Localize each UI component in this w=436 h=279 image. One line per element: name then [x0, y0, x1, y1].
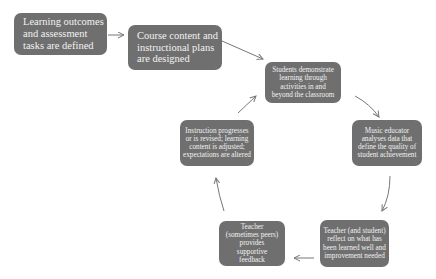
- node-label: Course content and instructional plans a…: [137, 30, 222, 65]
- node-instruction-progresses: Instruction progresses or is revised; le…: [180, 120, 254, 166]
- node-label: Teacher (sometimes peers) provides suppo…: [224, 223, 280, 263]
- arrow-n4-n5: [382, 176, 390, 211]
- node-students-demonstrate: Students demonstrate learning through ac…: [265, 62, 341, 103]
- arrow-n6-n7: [216, 178, 224, 211]
- node-label: Teacher (and student) reflect on what ha…: [323, 227, 386, 259]
- node-course-content: Course content and instructional plans a…: [128, 25, 222, 70]
- node-educator-analyses: Music educator analyses data that define…: [352, 120, 422, 166]
- arrow-n2-n3: [222, 41, 263, 59]
- node-label: Learning outcomes and assessment tasks a…: [23, 16, 107, 51]
- node-teacher-reflect: Teacher (and student) reflect on what ha…: [320, 220, 389, 267]
- node-teacher-feedback: Teacher (sometimes peers) provides suppo…: [219, 221, 285, 266]
- arrow-n7-n3: [238, 96, 256, 113]
- node-learning-outcomes: Learning outcomes and assessment tasks a…: [14, 13, 107, 55]
- node-label: Instruction progresses or is revised; le…: [183, 127, 251, 159]
- node-label: Music educator analyses data that define…: [356, 127, 418, 159]
- node-label: Students demonstrate learning through ac…: [269, 66, 337, 98]
- arrow-n3-n4: [355, 96, 379, 117]
